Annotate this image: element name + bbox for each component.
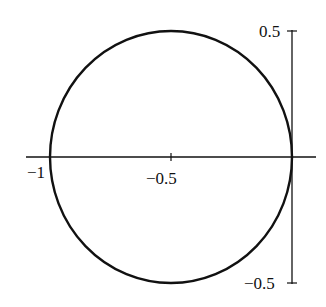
plot-canvas: −1 −0.5 0.5 −0.5 [0,0,326,307]
x-tick-label-neg1: −1 [27,163,45,182]
y-tick-label-neg05: −0.5 [244,274,275,293]
y-tick-label-pos05: 0.5 [259,22,280,41]
x-tick-label-neg05: −0.5 [146,169,177,188]
